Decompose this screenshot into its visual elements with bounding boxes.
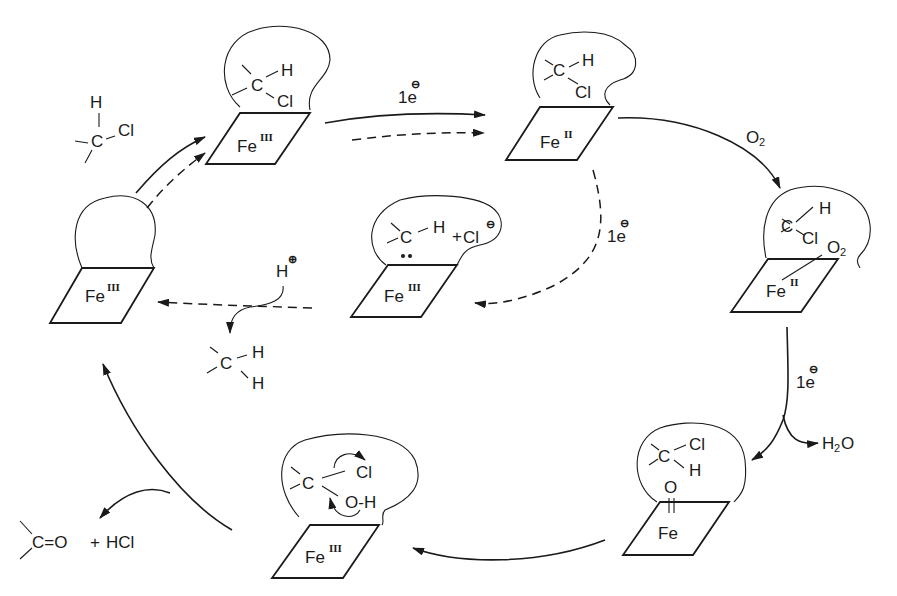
reduced-state: Fe II C H Cl (506, 32, 636, 160)
atom-cl: Cl (689, 435, 705, 454)
iron-label: Fe (85, 287, 105, 306)
iron-label: Fe (237, 137, 257, 156)
iron-label: Fe (540, 133, 560, 152)
atom-c: C (91, 132, 103, 151)
oxy-state: Fe II C H Cl O 2 (731, 186, 870, 312)
reduction-arrow-dashed (352, 133, 484, 140)
atom-h: H (281, 61, 293, 80)
heme-plate (206, 113, 310, 164)
atom-h: H (689, 461, 701, 480)
iron-label: Fe (766, 282, 786, 301)
atom-c: C (302, 474, 314, 493)
atom-h: H (252, 374, 264, 393)
electron-label: 1e (607, 227, 626, 246)
iron-label: Fe (384, 287, 404, 306)
atom-cl: Cl (277, 92, 293, 111)
carbene-branch-arrow (475, 170, 601, 304)
electron-charge: ⊖ (411, 78, 420, 90)
regeneration-arrow (103, 364, 232, 530)
hcl-product: HCl (106, 533, 134, 552)
lone-pair (408, 254, 412, 258)
atom-oh: O-H (345, 493, 376, 512)
atom-c: C (658, 447, 670, 466)
product-release-arrow (100, 490, 170, 518)
binding-arrow (136, 137, 205, 193)
atom-cl: Cl (118, 121, 134, 140)
carbene-state: Fe III C H + Cl ⊖ (351, 196, 501, 317)
atom-h: H (582, 51, 594, 70)
hydroxylation-arrow (413, 540, 605, 560)
hydroxylated-state: Fe III C Cl O-H (272, 434, 418, 578)
iron-label: Fe (658, 524, 678, 543)
atom-o2: O (827, 238, 840, 257)
atom-h: H (819, 199, 831, 218)
chloride-charge: ⊖ (486, 218, 495, 230)
o2-subscript: 2 (759, 136, 765, 148)
electron-charge: ⊖ (809, 363, 818, 375)
atom-cl: Cl (575, 83, 591, 102)
free-substrate: H C Cl (75, 93, 134, 163)
heme-plate (272, 525, 379, 578)
oxidation-state: III (107, 281, 120, 293)
binding-arrow-dashed (147, 153, 205, 208)
o2-label: O (746, 128, 759, 147)
electron-charge: ⊖ (620, 217, 629, 229)
oxidation-state: III (329, 542, 342, 554)
water-o: O (841, 434, 854, 453)
catalytic-cycle-diagram: Fe III H C Cl Fe III C H Cl 1e ⊖ Fe II (0, 0, 897, 596)
water-release-arrow (783, 415, 818, 443)
oxidation-state: II (790, 276, 799, 288)
atom-c: C (781, 217, 793, 236)
lone-pair (401, 254, 405, 258)
atom-o: O (664, 478, 677, 497)
atom-h: H (90, 93, 102, 112)
atom-c: C (400, 228, 412, 247)
o2-subscript: 2 (840, 246, 846, 258)
atom-c: C (553, 61, 565, 80)
atom-cl: Cl (463, 228, 479, 247)
carbonyl-product: C=O (32, 533, 67, 552)
plus-sign: + (90, 533, 100, 552)
reduction-arrow (325, 114, 485, 123)
atom-h: H (252, 343, 264, 362)
atom-c: C (251, 76, 263, 95)
water-h: H (822, 434, 834, 453)
resting-state: Fe III (50, 196, 155, 323)
oxidation-state: III (408, 281, 421, 293)
protein-pocket (764, 186, 871, 268)
oxidation-state: III (260, 131, 273, 143)
electron-label: 1e (796, 373, 815, 392)
oxo-state: Fe O C Cl H (623, 423, 746, 555)
heme-plate (351, 265, 457, 317)
plus-sign: + (452, 227, 462, 246)
protein-pocket (75, 196, 155, 268)
methylene-product: C H H (207, 343, 264, 393)
iron-label: Fe (305, 548, 325, 567)
atom-c: C (220, 354, 232, 373)
proton-transfer-arrow (230, 286, 283, 333)
proton-charge: ⊕ (288, 253, 297, 265)
proton-label: H (276, 262, 288, 281)
atom-cl: Cl (356, 463, 372, 482)
substrate-bound-state: Fe III C H Cl (206, 26, 330, 164)
atom-cl: Cl (802, 229, 818, 248)
water-subscript: 2 (834, 442, 840, 454)
oxidation-state: II (564, 128, 573, 140)
products: C=O + HCl (20, 521, 134, 559)
protonation-arrow (158, 302, 312, 308)
electron-label: 1e (398, 88, 417, 107)
atom-h: H (433, 218, 445, 237)
second-reduction-arrow (752, 327, 788, 460)
